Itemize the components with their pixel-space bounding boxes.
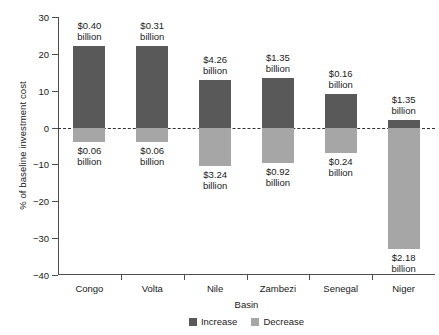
plot-area: 3020100−10−20−30−40 $0.40billion$0.06bil… — [58, 17, 435, 275]
y-tick-label: −40 — [33, 270, 49, 281]
legend-swatch-icon — [251, 318, 259, 326]
bar-increase[interactable] — [262, 78, 294, 128]
chart-figure: % of baseline investment cost 3020100−10… — [0, 0, 439, 335]
legend-swatch-icon — [189, 318, 197, 326]
x-tick-label-niger: Niger — [364, 283, 439, 294]
bar-group[interactable]: $1.35billion$2.18billion — [388, 17, 420, 275]
y-tick-mark — [52, 17, 58, 18]
bar-group[interactable]: $0.40billion$0.06billion — [73, 17, 105, 275]
y-tick-mark — [52, 201, 58, 202]
x-tick-mark — [184, 275, 185, 280]
bar-decrease[interactable] — [136, 128, 168, 143]
bar-decrease[interactable] — [325, 128, 357, 154]
value-amount: $1.35 — [241, 52, 315, 63]
bar-decrease[interactable] — [388, 128, 420, 250]
bar-increase-value-label: $1.35billion — [367, 94, 439, 116]
y-tick-label: −10 — [33, 159, 49, 170]
value-amount: $2.18 — [367, 252, 439, 263]
x-axis-label: Basin — [58, 299, 435, 310]
legend-label: Increase — [201, 316, 237, 327]
x-tick-mark — [309, 275, 310, 280]
value-unit: billion — [367, 105, 439, 116]
bar-decrease[interactable] — [73, 128, 105, 143]
y-tick-label: 0 — [44, 122, 49, 133]
value-amount: $1.35 — [367, 94, 439, 105]
value-amount: $0.31 — [115, 20, 189, 31]
bar-increase[interactable] — [73, 46, 105, 127]
x-tick-mark — [121, 275, 122, 280]
y-tick-mark — [52, 54, 58, 55]
bar-increase[interactable] — [325, 94, 357, 127]
value-amount: $0.16 — [304, 68, 378, 79]
value-amount: $0.24 — [304, 156, 378, 167]
value-unit: billion — [367, 263, 439, 274]
value-unit: billion — [304, 79, 378, 90]
value-amount: $0.06 — [115, 145, 189, 156]
value-unit: billion — [115, 156, 189, 167]
legend-item-decrease[interactable]: Decrease — [251, 316, 304, 327]
y-tick-mark — [52, 91, 58, 92]
x-tick-mark — [372, 275, 373, 280]
y-axis-label: % of baseline investment cost — [17, 51, 28, 241]
bar-increase[interactable] — [136, 46, 168, 127]
y-tick-label: 30 — [38, 12, 49, 23]
y-tick-label: −30 — [33, 233, 49, 244]
value-unit: billion — [115, 31, 189, 42]
bar-decrease-value-label: $2.18billion — [367, 252, 439, 274]
chart-legend: IncreaseDecrease — [58, 316, 435, 327]
bar-group[interactable]: $0.31billion$0.06billion — [136, 17, 168, 275]
bar-group[interactable]: $0.16billion$0.24billion — [325, 17, 357, 275]
value-unit: billion — [304, 167, 378, 178]
bar-group[interactable]: $1.35billion$0.92billion — [262, 17, 294, 275]
legend-label: Decrease — [263, 316, 304, 327]
y-tick-label: 10 — [38, 85, 49, 96]
y-tick-label: 20 — [38, 48, 49, 59]
x-tick-mark — [247, 275, 248, 280]
bar-decrease[interactable] — [262, 128, 294, 163]
y-tick-label: −20 — [33, 196, 49, 207]
bar-group[interactable]: $4.26billion$3.24billion — [199, 17, 231, 275]
bar-decrease[interactable] — [199, 128, 231, 167]
y-tick-mark — [52, 238, 58, 239]
bar-increase[interactable] — [388, 120, 420, 127]
bar-increase-value-label: $0.16billion — [304, 68, 378, 90]
legend-item-increase[interactable]: Increase — [189, 316, 237, 327]
bar-increase-value-label: $0.31billion — [115, 20, 189, 42]
bar-decrease-value-label: $0.24billion — [304, 156, 378, 178]
zero-reference-line — [58, 128, 435, 129]
y-tick-mark — [52, 275, 58, 276]
bar-increase[interactable] — [199, 80, 231, 128]
bar-decrease-value-label: $0.06billion — [115, 145, 189, 167]
